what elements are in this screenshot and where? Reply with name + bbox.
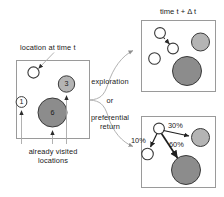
return-probability-30-label: 30% (168, 122, 183, 129)
exploration-dark-gray-circle (173, 57, 202, 86)
branch-label-exploration: exploration (91, 78, 128, 87)
current-location-callout: location at time t (20, 44, 76, 53)
branch-label-or: or (107, 97, 114, 106)
return-dark-gray-circle (172, 156, 201, 185)
return-probability-60-label: 60% (169, 141, 184, 148)
visited-circle-3-label: 3 (65, 80, 69, 87)
exploration-new-location-circle (168, 43, 179, 54)
visited-circle-1-label: 1 (20, 98, 24, 105)
branch-label-preferential-return-line2: return (100, 123, 120, 132)
return-probability-10-label: 10% (131, 137, 146, 144)
exploration-white-circle (149, 53, 161, 65)
return-white-circle (142, 148, 154, 160)
current-location-circle (28, 67, 39, 78)
return-current-location-circle (154, 123, 165, 134)
exploration-panel-title: time t + Δ t (160, 8, 196, 16)
branch-connector-to-exploration (90, 51, 133, 101)
return-light-gray-circle (192, 129, 210, 147)
exploration-previous-location-circle (155, 28, 166, 39)
exploration-light-gray-circle (192, 33, 210, 51)
figure-canvas: location at time t already visited locat… (0, 0, 224, 197)
visited-locations-callout-line2: locations (38, 157, 68, 166)
visited-circle-6-label: 6 (51, 109, 55, 116)
